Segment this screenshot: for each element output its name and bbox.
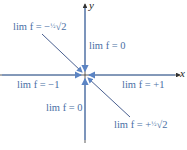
label-right: lim f = +1 <box>122 79 164 91</box>
label-left: lim f = −1 <box>17 79 59 91</box>
x-axis-label: x <box>180 67 185 79</box>
label-upper-left: lim f = −½√2 <box>13 20 66 33</box>
y-axis-label: y <box>89 0 94 11</box>
label-lower-right: lim f = +½√2 <box>114 118 167 131</box>
label-upper: lim f = 0 <box>89 40 126 52</box>
label-lower: lim f = 0 <box>46 102 83 114</box>
path-from-upper-left <box>42 34 82 72</box>
